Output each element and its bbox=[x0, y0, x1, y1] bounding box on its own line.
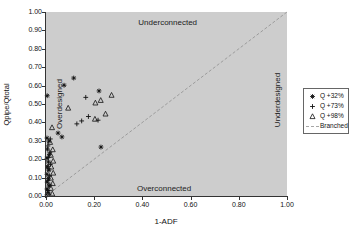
series-line-branched bbox=[46, 12, 287, 196]
y-tick-mark bbox=[42, 159, 46, 160]
y-tick-label: 0.00 bbox=[12, 192, 42, 200]
legend-marker-triangle-open-icon bbox=[305, 112, 320, 121]
y-tick-mark bbox=[42, 104, 46, 105]
x-axis-title: 1-ADF bbox=[106, 217, 226, 226]
y-tick-label: 0.90 bbox=[12, 26, 42, 34]
y-tick-mark bbox=[42, 178, 46, 179]
y-axis-title: Qpipe/Qtotal bbox=[2, 75, 11, 135]
x-tick-label: 0.40 bbox=[127, 201, 157, 209]
x-tick-label: 0.00 bbox=[31, 201, 61, 209]
y-tick-label: 0.10 bbox=[12, 174, 42, 182]
x-tick-label: 1.00 bbox=[272, 201, 302, 209]
y-tick-mark bbox=[42, 122, 46, 123]
x-tick-mark bbox=[239, 196, 240, 200]
legend-label: Q +32% bbox=[320, 92, 344, 100]
legend-marker-asterisk-icon bbox=[305, 92, 320, 101]
x-tick-mark bbox=[94, 196, 95, 200]
legend-marker-dashed-line-icon bbox=[305, 122, 320, 131]
x-tick-mark bbox=[191, 196, 192, 200]
legend-marker-plus-icon bbox=[305, 102, 320, 111]
y-tick-label: 0.80 bbox=[12, 45, 42, 53]
legend-item-branched: Branched bbox=[305, 121, 346, 131]
legend-item-q-98: Q +98% bbox=[305, 111, 346, 121]
x-tick-mark bbox=[46, 196, 47, 200]
plot-canvas bbox=[46, 12, 287, 196]
legend: Q +32%Q +73%Q +98%Branched bbox=[303, 88, 349, 134]
legend-label: Q +98% bbox=[320, 112, 344, 120]
legend-label: Branched bbox=[320, 122, 348, 130]
y-tick-mark bbox=[42, 141, 46, 142]
x-tick-mark bbox=[142, 196, 143, 200]
series-q-32 bbox=[45, 76, 104, 198]
y-tick-label: 0.30 bbox=[12, 137, 42, 145]
x-tick-label: 0.80 bbox=[224, 201, 254, 209]
y-tick-label: 0.50 bbox=[12, 100, 42, 108]
y-tick-label: 0.40 bbox=[12, 118, 42, 126]
y-tick-label: 0.20 bbox=[12, 155, 42, 163]
legend-label: Q +73% bbox=[320, 102, 344, 110]
y-axis-line bbox=[45, 12, 46, 198]
y-tick-label: 1.00 bbox=[12, 8, 42, 16]
legend-item-q-73: Q +73% bbox=[305, 101, 346, 111]
y-tick-mark bbox=[42, 67, 46, 68]
legend-item-q-32: Q +32% bbox=[305, 91, 346, 101]
x-tick-label: 0.60 bbox=[176, 201, 206, 209]
series-q-73 bbox=[45, 95, 100, 197]
series-q-98 bbox=[48, 92, 114, 195]
scatter-chart: UnderconnectedOverconnectedOverdesignedU… bbox=[0, 0, 357, 241]
y-tick-label: 0.70 bbox=[12, 63, 42, 71]
x-tick-mark bbox=[287, 196, 288, 200]
y-tick-mark bbox=[42, 49, 46, 50]
y-tick-mark bbox=[42, 12, 46, 13]
x-tick-label: 0.20 bbox=[79, 201, 109, 209]
y-tick-mark bbox=[42, 30, 46, 31]
y-tick-mark bbox=[42, 86, 46, 87]
x-axis-line bbox=[42, 196, 288, 197]
y-tick-label: 0.60 bbox=[12, 82, 42, 90]
